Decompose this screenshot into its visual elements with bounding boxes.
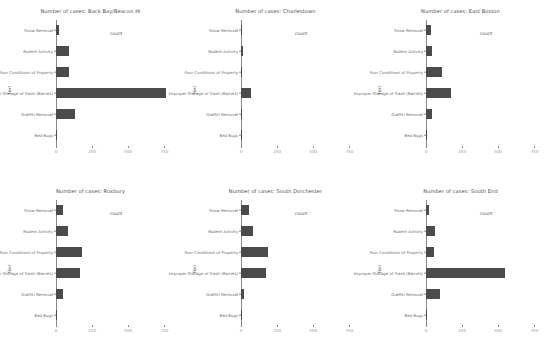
bar[interactable] bbox=[56, 247, 82, 257]
y-tick-mark bbox=[239, 93, 241, 94]
x-axis-title: count bbox=[56, 211, 176, 216]
y-tick-label: Graffiti Removal bbox=[21, 112, 53, 117]
facet-grid: Number of cases: Back Bay/Beacon Hi Text… bbox=[0, 0, 555, 359]
bar[interactable] bbox=[56, 268, 80, 278]
x-axis-title: count bbox=[241, 211, 361, 216]
y-tick-label: Graffiti Removal bbox=[391, 291, 423, 296]
x-axis: 0250500750 bbox=[241, 146, 361, 166]
y-tick-mark bbox=[54, 51, 56, 52]
bar[interactable] bbox=[426, 109, 432, 119]
bar[interactable] bbox=[241, 130, 242, 140]
bar-row: Poor Conditions of Property bbox=[426, 67, 546, 77]
bar[interactable] bbox=[56, 310, 57, 320]
bar-row: Poor Conditions of Property bbox=[241, 247, 361, 257]
y-tick-label: Snow Removal bbox=[24, 28, 53, 33]
x-tick-label: 250 bbox=[88, 149, 96, 154]
facet-panel-roxbury: Number of cases: Roxbury Text Snow Remov… bbox=[0, 180, 185, 359]
y-tick-label: Poor Conditions of Property bbox=[369, 249, 423, 254]
bar-series: Snow RemovalRodent ActivityPoor Conditio… bbox=[241, 200, 361, 326]
x-tick-label: 750 bbox=[531, 328, 539, 333]
x-tick-label: 750 bbox=[346, 149, 354, 154]
bar[interactable] bbox=[56, 130, 57, 140]
bar[interactable] bbox=[426, 130, 427, 140]
y-tick-mark bbox=[54, 135, 56, 136]
bar-row: Rodent Activity bbox=[426, 226, 546, 236]
x-tick-mark bbox=[277, 146, 278, 148]
x-tick-label: 250 bbox=[273, 328, 281, 333]
y-tick-mark bbox=[239, 72, 241, 73]
bar[interactable] bbox=[56, 289, 63, 299]
bar[interactable] bbox=[241, 310, 242, 320]
y-tick-label: Improper Storage of Trash (Barrels) bbox=[169, 270, 238, 275]
y-tick-mark bbox=[424, 231, 426, 232]
bar-row: Rodent Activity bbox=[426, 46, 546, 56]
bar[interactable] bbox=[241, 109, 242, 119]
x-tick-label: 750 bbox=[531, 149, 539, 154]
x-tick-label: 250 bbox=[88, 328, 96, 333]
y-tick-label: Snow Removal bbox=[209, 207, 238, 212]
x-tick-mark bbox=[498, 325, 499, 327]
x-tick-label: 750 bbox=[161, 149, 169, 154]
x-tick-label: 250 bbox=[458, 149, 466, 154]
y-tick-label: Rodent Activity bbox=[23, 228, 53, 233]
y-tick-label: Poor Conditions of Property bbox=[0, 70, 53, 75]
bar-row: Graffiti Removal bbox=[56, 289, 176, 299]
panel-title: Number of cases: Charlestown bbox=[185, 8, 366, 14]
y-tick-label: Poor Conditions of Property bbox=[0, 249, 53, 254]
bar-series: Snow RemovalRodent ActivityPoor Conditio… bbox=[426, 200, 546, 326]
bar[interactable] bbox=[426, 247, 434, 257]
x-tick-mark bbox=[92, 325, 93, 327]
x-tick-mark bbox=[241, 325, 242, 327]
y-tick-label: Graffiti Removal bbox=[391, 112, 423, 117]
bar-row: Graffiti Removal bbox=[56, 109, 176, 119]
x-tick-mark bbox=[164, 325, 165, 327]
plot-area: Snow RemovalRodent ActivityPoor Conditio… bbox=[426, 20, 546, 146]
y-tick-mark bbox=[239, 314, 241, 315]
x-tick-label: 750 bbox=[161, 328, 169, 333]
y-tick-mark bbox=[54, 231, 56, 232]
x-tick-label: 500 bbox=[309, 149, 317, 154]
bar-row: Improper Storage of Trash (Barrels) bbox=[56, 268, 176, 278]
bar[interactable] bbox=[241, 289, 244, 299]
bar[interactable] bbox=[241, 46, 243, 56]
bar[interactable] bbox=[241, 67, 242, 77]
bar-row: Rodent Activity bbox=[241, 46, 361, 56]
bar[interactable] bbox=[56, 88, 166, 98]
bar-row: Improper Storage of Trash (Barrels) bbox=[426, 268, 546, 278]
bar[interactable] bbox=[426, 226, 435, 236]
y-tick-label: Snow Removal bbox=[394, 207, 423, 212]
x-tick-mark bbox=[462, 146, 463, 148]
bar[interactable] bbox=[426, 67, 442, 77]
x-tick-label: 500 bbox=[124, 149, 132, 154]
y-tick-label: Poor Conditions of Property bbox=[184, 249, 238, 254]
x-tick-mark bbox=[92, 146, 93, 148]
bar[interactable] bbox=[241, 226, 253, 236]
y-tick-label: Improper Storage of Trash (Barrels) bbox=[0, 91, 53, 96]
bar[interactable] bbox=[56, 109, 75, 119]
x-tick-mark bbox=[349, 146, 350, 148]
y-tick-mark bbox=[424, 51, 426, 52]
x-tick-mark bbox=[498, 146, 499, 148]
bar[interactable] bbox=[56, 67, 69, 77]
bar[interactable] bbox=[241, 247, 268, 257]
bar[interactable] bbox=[426, 88, 451, 98]
y-tick-mark bbox=[54, 72, 56, 73]
bar[interactable] bbox=[56, 46, 69, 56]
bar[interactable] bbox=[426, 310, 427, 320]
bar[interactable] bbox=[426, 289, 440, 299]
bar[interactable] bbox=[241, 88, 251, 98]
bar[interactable] bbox=[241, 268, 266, 278]
bar-row: Poor Conditions of Property bbox=[426, 247, 546, 257]
bar[interactable] bbox=[56, 226, 68, 236]
bar[interactable] bbox=[426, 46, 432, 56]
y-tick-label: Bed Bugs bbox=[404, 133, 423, 138]
x-tick-mark bbox=[534, 146, 535, 148]
bar-row: Poor Conditions of Property bbox=[56, 247, 176, 257]
x-tick-label: 0 bbox=[55, 328, 58, 333]
y-tick-label: Bed Bugs bbox=[404, 312, 423, 317]
bar-series: Snow RemovalRodent ActivityPoor Conditio… bbox=[426, 20, 546, 146]
bar-row: Graffiti Removal bbox=[241, 109, 361, 119]
bar[interactable] bbox=[426, 268, 505, 278]
y-tick-mark bbox=[424, 93, 426, 94]
x-tick-label: 250 bbox=[458, 328, 466, 333]
